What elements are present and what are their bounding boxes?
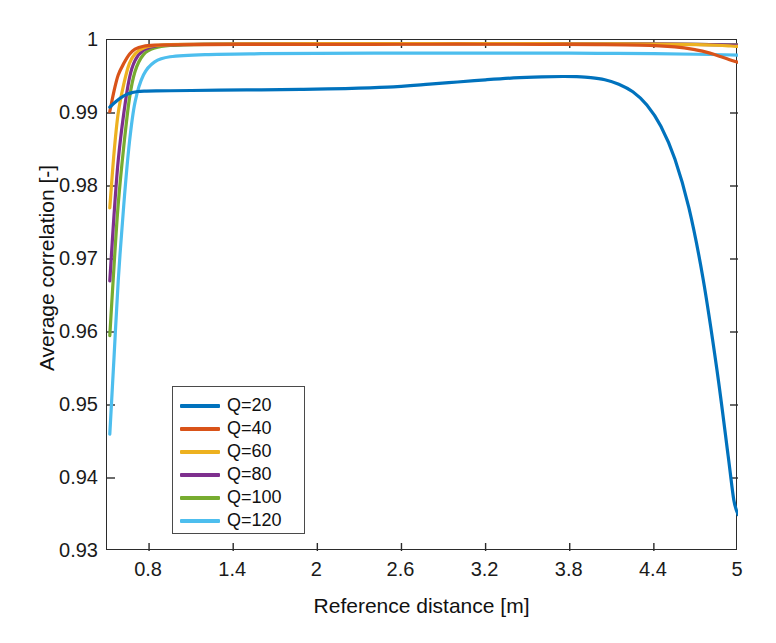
x-tick-label: 1.4 bbox=[218, 558, 246, 581]
figure-canvas: 0.930.940.950.960.970.980.991 Average co… bbox=[0, 0, 776, 643]
x-axis-tick-labels: 0.81.422.63.23.84.45 bbox=[106, 558, 737, 586]
legend-color-swatch bbox=[180, 427, 220, 431]
legend-label: Q=120 bbox=[227, 510, 282, 531]
y-tick-label: 0.95 bbox=[59, 393, 98, 416]
y-tick-label: 0.98 bbox=[59, 174, 98, 197]
legend-item[interactable]: Q=60 bbox=[173, 440, 304, 463]
y-tick-label: 0.96 bbox=[59, 320, 98, 343]
y-tick-label: 1 bbox=[87, 28, 98, 51]
legend-color-swatch bbox=[180, 473, 220, 477]
y-tick-label: 0.94 bbox=[59, 466, 98, 489]
x-tick-label: 0.8 bbox=[134, 558, 162, 581]
legend-label: Q=80 bbox=[227, 464, 272, 485]
legend-item[interactable]: Q=100 bbox=[173, 486, 304, 509]
legend-color-swatch bbox=[180, 519, 220, 523]
x-tick-label: 5 bbox=[731, 558, 742, 581]
y-tick-label: 0.93 bbox=[59, 539, 98, 562]
legend-color-swatch bbox=[180, 450, 220, 454]
x-tick-label: 2 bbox=[311, 558, 322, 581]
legend-label: Q=60 bbox=[227, 441, 272, 462]
y-axis-title: Average correlation [-] bbox=[35, 58, 59, 478]
x-axis-title: Reference distance [m] bbox=[106, 594, 737, 618]
x-tick-label: 2.6 bbox=[387, 558, 415, 581]
legend-item[interactable]: Q=40 bbox=[173, 417, 304, 440]
x-tick-label: 4.4 bbox=[639, 558, 667, 581]
legend-item[interactable]: Q=120 bbox=[173, 509, 304, 532]
legend-color-swatch bbox=[180, 496, 220, 500]
legend-item[interactable]: Q=80 bbox=[173, 463, 304, 486]
legend: Q=20Q=40Q=60Q=80Q=100Q=120 bbox=[172, 386, 305, 534]
legend-color-swatch bbox=[180, 404, 220, 408]
series-line bbox=[110, 44, 738, 336]
legend-item[interactable]: Q=20 bbox=[173, 394, 304, 417]
x-tick-label: 3.2 bbox=[471, 558, 499, 581]
x-tick-label: 3.8 bbox=[555, 558, 583, 581]
series-line bbox=[110, 44, 738, 281]
legend-label: Q=100 bbox=[227, 487, 282, 508]
legend-label: Q=20 bbox=[227, 395, 272, 416]
y-tick-label: 0.99 bbox=[59, 101, 98, 124]
legend-label: Q=40 bbox=[227, 418, 272, 439]
series-line bbox=[110, 53, 738, 434]
y-tick-label: 0.97 bbox=[59, 247, 98, 270]
series-line bbox=[110, 44, 738, 208]
